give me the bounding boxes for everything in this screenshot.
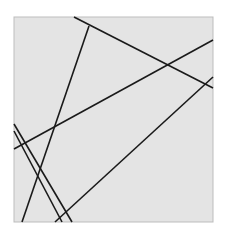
- line-arrangement-diagram: [0, 0, 226, 236]
- gray-panel: [14, 17, 213, 222]
